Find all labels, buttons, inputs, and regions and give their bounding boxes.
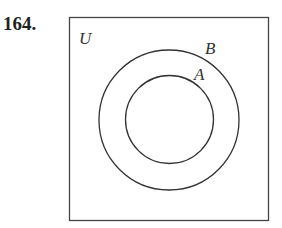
set-b-circle	[99, 50, 239, 190]
set-b-label: B	[205, 39, 216, 58]
venn-diagram: U B A	[0, 0, 282, 228]
set-a-label: A	[193, 65, 205, 84]
set-a-circle	[126, 76, 214, 164]
universe-label: U	[79, 29, 93, 48]
